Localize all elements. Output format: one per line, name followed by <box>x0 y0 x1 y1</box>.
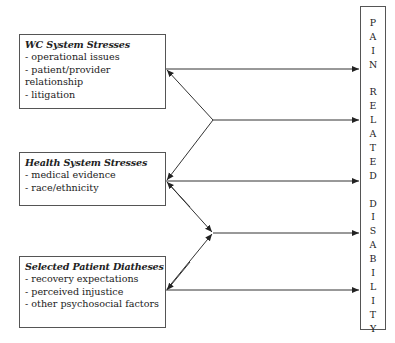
outcome-letter: P <box>361 16 385 30</box>
health-system-stresses-box: Health System Stresses - medical evidenc… <box>19 152 166 206</box>
box-title: Health System Stresses <box>25 157 161 169</box>
outcome-letter: I <box>361 210 385 224</box>
fork2-to-hs-arrow <box>167 182 190 207</box>
outcome-letter: T <box>361 141 385 155</box>
outcome-letter: I <box>361 44 385 58</box>
outcome-letter <box>361 72 385 86</box>
outcome-letter: D <box>361 169 385 183</box>
outcome-letter: A <box>361 238 385 252</box>
box-item: - perceived injustice <box>25 286 161 298</box>
outcome-letter: I <box>361 294 385 308</box>
box-item: - patient/provider <box>25 64 161 76</box>
wc-system-stresses-box: WC System Stresses - operational issues … <box>19 34 166 109</box>
selected-patient-diatheses-box: Selected Patient Diatheses - recovery ex… <box>19 256 166 328</box>
box-item: - operational issues <box>25 51 161 63</box>
box-item: - recovery expectations <box>25 273 161 285</box>
box-item: - medical evidence <box>25 169 161 181</box>
outcome-letter: I <box>361 266 385 280</box>
fork1-to-wc-arrow <box>167 70 213 120</box>
outcome-letter: L <box>361 280 385 294</box>
box-item: relationship <box>25 76 161 88</box>
box-item: - other psychosocial factors <box>25 298 161 310</box>
outcome-letter: R <box>361 85 385 99</box>
outcome-letter <box>361 183 385 197</box>
pd-to-fork2-arrow <box>167 234 212 289</box>
box-title: WC System Stresses <box>25 39 161 51</box>
box-item: - race/ethnicity <box>25 182 161 194</box>
outcome-letter: D <box>361 197 385 211</box>
fork2-to-pd-arrow <box>167 262 190 290</box>
outcome-letter: E <box>361 155 385 169</box>
outcome-letter: L <box>361 113 385 127</box>
outcome-letter: Y <box>361 322 385 336</box>
outcome-letter: T <box>361 308 385 322</box>
pain-related-disability-box: P A I N R E L A T E D D I S A B I L I T … <box>360 6 386 330</box>
outcome-letter: B <box>361 252 385 266</box>
fork1-to-hs-arrow <box>167 120 213 180</box>
outcome-letter: N <box>361 58 385 72</box>
outcome-letter: S <box>361 224 385 238</box>
box-item: - litigation <box>25 89 161 101</box>
outcome-label-vertical: P A I N R E L A T E D D I S A B I L I T … <box>361 16 385 335</box>
outcome-letter: A <box>361 30 385 44</box>
outcome-letter: A <box>361 127 385 141</box>
box-title: Selected Patient Diatheses <box>25 261 161 273</box>
outcome-letter: E <box>361 99 385 113</box>
